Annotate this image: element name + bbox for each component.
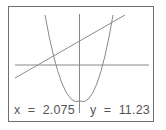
linear-function-line [15, 15, 125, 78]
y-coordinate-readout: y = 11.23 [90, 102, 150, 118]
x-coordinate-readout: x = 2.075 [14, 102, 75, 118]
